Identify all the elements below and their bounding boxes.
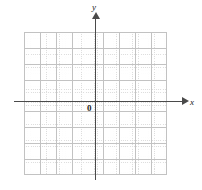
x-axis-arrow-icon (182, 97, 189, 105)
x-axis-line (14, 101, 184, 102)
x-axis-label: x (190, 98, 194, 107)
coordinate-plane-figure: y x 0 (0, 0, 202, 190)
origin-label: 0 (87, 104, 92, 113)
y-axis-line (95, 18, 96, 180)
y-axis-label: y (92, 3, 96, 12)
y-axis-arrow-icon (92, 12, 100, 19)
grid-border-right (166, 32, 167, 175)
